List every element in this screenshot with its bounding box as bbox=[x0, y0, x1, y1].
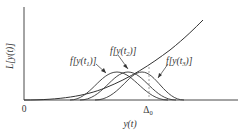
arrow-f2 bbox=[118, 55, 128, 69]
density-curve-t1 bbox=[70, 72, 168, 100]
arrow-f1 bbox=[96, 64, 106, 73]
density-label-t1: f[y(t1)] bbox=[70, 56, 97, 67]
density-label-t3: f[y(t3)] bbox=[166, 56, 193, 67]
arrow-f3 bbox=[158, 64, 168, 78]
threshold-label: Δ0 bbox=[143, 105, 152, 116]
y-axis-label: L[y(t)] bbox=[5, 43, 16, 70]
origin-label: 0 bbox=[22, 104, 27, 114]
density-label-t2: f[y(t2)] bbox=[110, 46, 137, 57]
x-axis-label: y(t) bbox=[122, 119, 136, 130]
degradation-loss-diagram: L[y(t)] 0 Δ0 y(t) f[y(t1)] f[y(t2)] f[y(… bbox=[0, 0, 240, 134]
